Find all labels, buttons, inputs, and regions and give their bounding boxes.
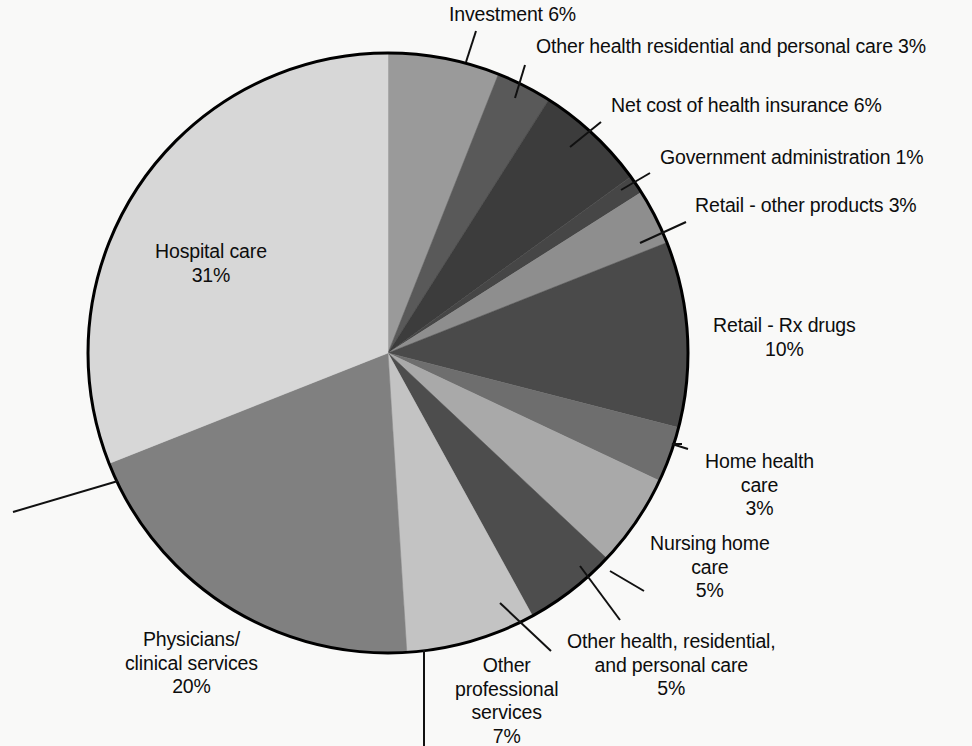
pie-label-line: 7% — [455, 725, 558, 746]
pie-label-line: 20% — [125, 675, 258, 699]
pie-label-line: Retail - other products 3% — [695, 194, 917, 218]
pie-label-line: and personal care — [567, 654, 776, 678]
pie-label-line: 5% — [650, 579, 770, 603]
pie-label-line: Other health, residential, — [567, 630, 776, 654]
pie-label-line: Other health residential and personal ca… — [536, 35, 926, 59]
pie-label-line: 31% — [155, 264, 267, 288]
pie-label-line: 3% — [705, 497, 814, 521]
pie-label-investment: Investment 6% — [449, 3, 576, 27]
pie-label-line: Physicians/ — [125, 628, 258, 652]
pie-label-line: Other — [455, 654, 558, 678]
pie-label-other-health-residential-and-personal-care-bottom: Other health, residential,and personal c… — [567, 630, 776, 701]
pie-label-physicians-clinical-services: Physicians/clinical services20% — [125, 628, 258, 699]
pie-label-line: professional — [455, 678, 558, 702]
pie-label-line: Home health — [705, 450, 814, 474]
leader-line-nursing-home-care — [610, 571, 644, 591]
pie-label-nursing-home-care: Nursing homecare5% — [650, 532, 770, 603]
pie-label-line: 10% — [713, 338, 856, 362]
chart-root: Investment 6%Other health residential an… — [0, 0, 972, 746]
pie-label-line: Investment 6% — [449, 3, 576, 27]
pie-label-retail-rx-drugs: Retail - Rx drugs10% — [713, 314, 856, 361]
pie-label-line: services — [455, 701, 558, 725]
pie-label-line: Nursing home — [650, 532, 770, 556]
pie-label-home-health-care: Home healthcare3% — [705, 450, 814, 521]
pie-label-government-administration: Government administration 1% — [660, 146, 924, 170]
pie-label-line: care — [650, 556, 770, 580]
pie-label-line: Retail - Rx drugs — [713, 314, 856, 338]
pie-label-line: Government administration 1% — [660, 146, 924, 170]
pie-label-line: Hospital care — [155, 240, 267, 264]
pie-label-other-professional-services: Otherprofessionalservices7% — [455, 654, 558, 746]
pie-label-line: Net cost of health insurance 6% — [611, 94, 882, 118]
pie-slices — [88, 53, 688, 653]
pie-label-line: clinical services — [125, 652, 258, 676]
pie-label-hospital-care: Hospital care31% — [155, 240, 267, 287]
leader-line-physicians-leader — [13, 481, 118, 512]
pie-label-other-health-residential-and-personal-care-top: Other health residential and personal ca… — [536, 35, 926, 59]
pie-label-line: 5% — [567, 677, 776, 701]
leader-line-investment — [466, 31, 476, 62]
pie-label-net-cost-of-health-insurance: Net cost of health insurance 6% — [611, 94, 882, 118]
pie-label-line: care — [705, 474, 814, 498]
pie-label-retail-other-products: Retail - other products 3% — [695, 194, 917, 218]
